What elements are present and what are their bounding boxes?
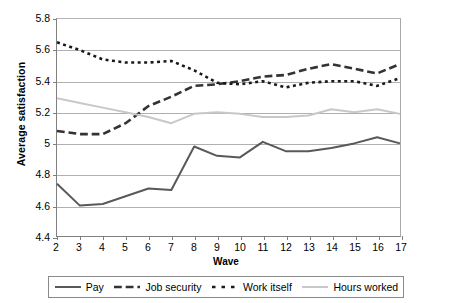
x-axis-tick-mark bbox=[379, 236, 380, 240]
x-axis-tick-label: 6 bbox=[145, 241, 151, 253]
x-axis-tick-label: 3 bbox=[76, 241, 82, 253]
x-axis-tick-mark bbox=[80, 236, 81, 240]
series-line bbox=[57, 98, 400, 123]
x-axis-tick-mark bbox=[195, 236, 196, 240]
x-axis-tick-label: 5 bbox=[122, 241, 128, 253]
x-axis-tick-label: 12 bbox=[280, 241, 292, 253]
legend-label: Pay bbox=[86, 281, 104, 293]
legend-swatch-work-itself-icon bbox=[211, 281, 239, 293]
legend-label: Hours worked bbox=[333, 281, 398, 293]
legend-swatch-hours-worked-icon bbox=[301, 281, 329, 293]
x-axis-tick-mark bbox=[356, 236, 357, 240]
legend-item[interactable]: Job security bbox=[113, 281, 201, 293]
series-lines bbox=[57, 19, 400, 237]
x-axis-tick-label: 11 bbox=[258, 241, 269, 253]
series-line bbox=[57, 42, 400, 87]
x-axis-tick-mark bbox=[103, 236, 104, 240]
x-axis-tick-label: 16 bbox=[372, 241, 384, 253]
y-axis-tick-mark bbox=[53, 19, 57, 20]
x-axis-tick-label: 9 bbox=[214, 241, 220, 253]
x-axis-tick-mark bbox=[241, 236, 242, 240]
legend-swatch-pay-icon bbox=[54, 281, 82, 293]
x-axis-tick-mark bbox=[264, 236, 265, 240]
y-axis-tick-mark bbox=[53, 50, 57, 51]
x-axis-tick-label: 7 bbox=[168, 241, 174, 253]
x-axis-tick-mark bbox=[149, 236, 150, 240]
x-axis-tick-mark bbox=[218, 236, 219, 240]
x-axis-tick-label: 4 bbox=[99, 241, 105, 253]
y-axis-tick-mark bbox=[53, 207, 57, 208]
y-axis-tick-mark bbox=[53, 82, 57, 83]
plot-area bbox=[56, 18, 401, 237]
legend-label: Job security bbox=[145, 281, 201, 293]
legend-swatch-job-security-icon bbox=[113, 281, 141, 293]
x-axis-tick-mark bbox=[57, 236, 58, 240]
x-axis-tick-mark bbox=[310, 236, 311, 240]
line-chart: Average satisfaction Wave 4.44.64.855.25… bbox=[0, 0, 452, 303]
x-axis-tick-label: 17 bbox=[395, 241, 407, 253]
x-axis-tick-mark bbox=[333, 236, 334, 240]
legend-label: Work itself bbox=[243, 281, 292, 293]
x-axis-tick-mark bbox=[402, 236, 403, 240]
y-axis-tick-mark bbox=[53, 175, 57, 176]
x-axis-tick-mark bbox=[126, 236, 127, 240]
y-axis-tick-mark bbox=[53, 144, 57, 145]
series-line bbox=[57, 137, 400, 205]
legend-item[interactable]: Hours worked bbox=[301, 281, 398, 293]
chart-legend: PayJob securityWork itselfHours worked bbox=[48, 276, 404, 298]
y-axis-tick-mark bbox=[53, 113, 57, 114]
x-axis-tick-mark bbox=[287, 236, 288, 240]
x-axis-tick-label: 13 bbox=[303, 241, 315, 253]
x-axis-tick-label: 14 bbox=[326, 241, 338, 253]
x-axis-tick-label: 10 bbox=[234, 241, 246, 253]
legend-item[interactable]: Work itself bbox=[211, 281, 292, 293]
x-axis-tick-label: 8 bbox=[191, 241, 197, 253]
x-axis-tick-mark bbox=[172, 236, 173, 240]
series-line bbox=[57, 64, 400, 134]
x-axis-tick-label: 2 bbox=[53, 241, 59, 253]
legend-item[interactable]: Pay bbox=[54, 281, 104, 293]
x-axis-tick-label: 15 bbox=[349, 241, 361, 253]
